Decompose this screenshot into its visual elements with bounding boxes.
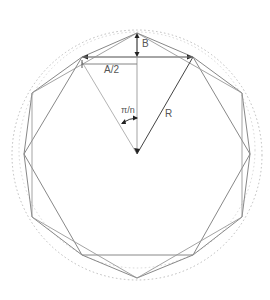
diagram-canvas [0,0,270,300]
radius-line [137,57,193,154]
label-half-side: A/2 [104,64,119,75]
polygon-diagram: B A/2 π/n R [0,0,270,300]
label-radius: R [165,108,172,119]
label-angle: π/n [121,105,135,115]
label-b: B [142,38,149,49]
angle-arrow-left [121,119,126,124]
b-arrow-bottom [135,52,140,57]
